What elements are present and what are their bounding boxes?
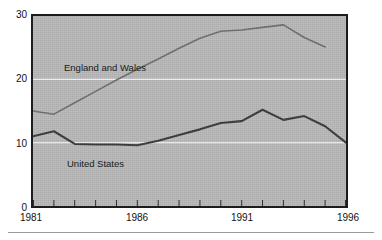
y-tick-label-20: 20 [5, 73, 27, 84]
x-tick-label-1986: 1986 [117, 212, 157, 223]
series-label-england-and-wales: England and Wales [64, 62, 146, 73]
series-label-united-states: United States [67, 158, 124, 169]
footer-divider [8, 232, 374, 233]
x-tick-label-1991: 1991 [222, 212, 262, 223]
x-tick-label-1981: 1981 [11, 212, 51, 223]
plot-canvas [33, 16, 346, 206]
chart-figure: 30 20 10 0 1981 1986 1991 1996 England a… [0, 0, 382, 240]
plot-area [31, 14, 348, 208]
series-lines [33, 25, 346, 145]
series-line-united-states [33, 110, 346, 145]
x-tick-label-1996: 1996 [328, 212, 368, 223]
y-tick-label-10: 10 [5, 138, 27, 149]
x-tick-marks [34, 200, 346, 206]
y-tick-label-30: 30 [5, 9, 27, 20]
